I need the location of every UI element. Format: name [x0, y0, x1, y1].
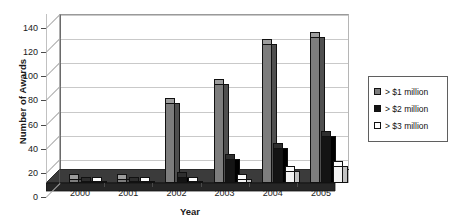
bar-front-face	[81, 181, 91, 183]
bar	[69, 179, 79, 183]
gridline	[61, 160, 348, 161]
legend-item-label: > $1 million	[385, 87, 428, 97]
bar-front-face	[92, 181, 102, 183]
bar	[262, 44, 272, 183]
y-tick-label: 100	[10, 71, 38, 81]
y-axis-ticks: 020406080100120140	[8, 0, 38, 223]
bar	[165, 103, 175, 183]
bar	[214, 84, 224, 183]
legend-item: > $3 million	[374, 117, 442, 134]
bar-front-face	[165, 103, 175, 183]
x-tick-label: 2005	[292, 188, 350, 198]
series-3-swatch	[374, 122, 381, 129]
bar-front-face	[117, 179, 127, 183]
gridline	[61, 136, 348, 137]
bar-front-face	[140, 181, 150, 183]
bar-front-face	[225, 159, 235, 183]
bar-front-face	[69, 179, 79, 183]
bar-front-face	[214, 84, 224, 183]
y-tick-label: 20	[10, 168, 38, 178]
bar	[92, 182, 102, 184]
x-tick-mark	[201, 183, 202, 187]
bar	[321, 136, 331, 183]
y-tick-label: 120	[10, 47, 38, 57]
bar-chart: Number of Awards 020406080100120140 2000…	[0, 0, 454, 223]
bar-front-face	[129, 181, 139, 183]
bar	[140, 182, 150, 184]
bar	[129, 182, 139, 184]
x-tick-mark	[104, 183, 105, 187]
bar	[117, 179, 127, 183]
y-tick-label: 60	[10, 120, 38, 130]
series-1-swatch	[374, 88, 381, 95]
bar	[225, 159, 235, 183]
y-tick-label: 140	[10, 23, 38, 33]
legend-item: > $2 million	[374, 100, 442, 117]
bar-front-face	[188, 181, 198, 183]
bar	[333, 166, 343, 183]
bar-front-face	[333, 166, 343, 183]
bar	[237, 179, 247, 183]
x-tick-mark	[297, 183, 298, 187]
legend-item-label: > $2 million	[385, 104, 428, 114]
x-tick-mark	[249, 183, 250, 187]
y-tick-label: 40	[10, 144, 38, 154]
plot-area	[60, 14, 349, 183]
bar	[273, 148, 283, 183]
legend-item: > $1 million	[374, 83, 442, 100]
bar	[310, 37, 320, 183]
chart-legend: > $1 million > $2 million > $3 million	[368, 76, 448, 142]
bar	[177, 177, 187, 183]
bar-front-face	[237, 179, 247, 183]
y-tick-label: 80	[10, 95, 38, 105]
bar-side-face	[343, 166, 348, 183]
bar-front-face	[262, 44, 272, 183]
bar-front-face	[310, 37, 320, 183]
bar-front-face	[285, 171, 295, 183]
bar-front-face	[177, 177, 187, 183]
bar-front-face	[273, 148, 283, 183]
bar	[188, 182, 198, 184]
gridline	[61, 15, 348, 16]
legend-item-label: > $3 million	[385, 121, 428, 131]
bar	[285, 171, 295, 183]
gridline	[61, 87, 348, 88]
gridline	[61, 112, 348, 113]
x-axis-title: Year	[60, 206, 320, 217]
series-2-swatch	[374, 105, 381, 112]
y-tick-label: 0	[10, 192, 38, 202]
gridline	[61, 63, 348, 64]
bar-front-face	[321, 136, 331, 183]
gridline	[61, 39, 348, 40]
bar-side-face	[295, 171, 300, 183]
bar	[81, 182, 91, 184]
x-tick-mark	[152, 183, 153, 187]
